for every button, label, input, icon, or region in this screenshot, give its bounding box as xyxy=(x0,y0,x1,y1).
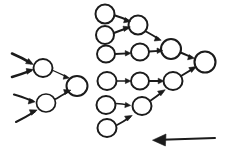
edge-C1-D1 xyxy=(181,53,195,60)
edge-B1-C1 xyxy=(146,32,161,42)
node-A3 xyxy=(97,46,115,63)
node-C1 xyxy=(161,39,181,59)
input-arrow-4 xyxy=(16,110,37,122)
sketch-canvas: Hand-drawn directed graph of circles and… xyxy=(0,0,227,160)
node-F1 xyxy=(131,73,149,90)
edge-E2-F2 xyxy=(116,102,131,107)
node-E3 xyxy=(98,119,117,137)
left-cluster xyxy=(12,54,88,123)
node-L3 xyxy=(67,76,88,96)
node-F2 xyxy=(133,97,152,115)
edge-E1-F1 xyxy=(117,78,131,83)
sketch-svg xyxy=(0,0,227,160)
node-E2 xyxy=(97,96,116,114)
input-arrow-1 xyxy=(12,54,33,65)
edge-L1-L3 xyxy=(53,71,69,80)
edge-E3-F2 xyxy=(117,115,132,125)
left-cluster-input-arrows xyxy=(12,54,37,123)
node-B1 xyxy=(129,16,148,35)
node-G1 xyxy=(164,72,183,90)
edge-F2-G1 xyxy=(150,90,165,101)
edge-G1-D1 xyxy=(181,67,196,76)
edge-L2-L3 xyxy=(56,90,72,99)
node-A2 xyxy=(96,26,114,44)
node-A1 xyxy=(96,5,115,24)
edge-A2-B1 xyxy=(114,26,130,33)
edge-F1-G1 xyxy=(149,78,164,84)
edge-A1-B1 xyxy=(115,16,131,23)
node-L2 xyxy=(37,94,56,112)
node-L1 xyxy=(34,59,53,77)
right-cluster-upper xyxy=(96,5,195,63)
input-arrow-2 xyxy=(12,69,33,78)
input-arrow-3 xyxy=(14,95,35,105)
node-D1 xyxy=(195,52,216,73)
node-B2 xyxy=(131,44,149,61)
backward-flow-arrow xyxy=(153,134,216,146)
right-cluster-lower xyxy=(97,67,197,137)
node-E1 xyxy=(98,72,117,90)
edge-A3-B2 xyxy=(115,51,131,56)
